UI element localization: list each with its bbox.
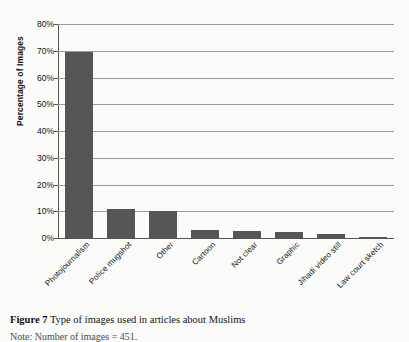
figure-page: Percentage of Images 0%10%20%30%40%50%60…	[0, 0, 409, 342]
x-axis-tick-label: Law court sketch	[335, 240, 385, 290]
x-axis-tick-labels: PhotojournalismPolice mugshotOtherCartoo…	[58, 240, 394, 302]
figure-note: Note: Number of images = 451.	[10, 331, 402, 342]
bar	[275, 232, 303, 238]
bar-chart: Percentage of Images 0%10%20%30%40%50%60…	[0, 0, 409, 310]
y-axis-tick-label: 70%	[37, 46, 54, 56]
x-axis-tick-label: Not clear	[230, 240, 260, 270]
y-axis-tick-label: 80%	[37, 19, 54, 29]
bar	[359, 237, 387, 238]
bar	[107, 209, 135, 238]
x-axis-tick-label: Other	[154, 240, 175, 261]
x-axis-tick-label: Police mugshot	[87, 240, 133, 286]
y-axis-title: Percentage of Images	[15, 1, 25, 161]
bar-series	[58, 24, 394, 238]
x-axis-tick-label: Photojournalism	[43, 240, 91, 288]
y-axis-tick-label: 30%	[37, 153, 54, 163]
y-axis-tick-mark	[54, 238, 58, 239]
bar	[191, 230, 219, 238]
x-axis-tick-label: Graphic	[275, 240, 302, 267]
y-axis-tick-label: 20%	[37, 180, 54, 190]
y-axis-tick-label: 60%	[37, 73, 54, 83]
bar	[65, 52, 93, 238]
x-axis-tick-label: Cartoon	[190, 240, 217, 267]
x-axis-baseline	[58, 238, 394, 239]
plot-area: 0%10%20%30%40%50%60%70%80%	[58, 24, 394, 238]
x-axis-tick-label: Jihadi video still	[296, 240, 343, 287]
y-axis-tick-label: 0%	[42, 233, 54, 243]
y-axis-tick-label: 10%	[37, 206, 54, 216]
figure-caption-text: Type of images used in articles about Mu…	[50, 314, 246, 325]
y-axis-tick-label: 50%	[37, 99, 54, 109]
bar	[317, 234, 345, 238]
y-axis-tick-label: 40%	[37, 126, 54, 136]
bar	[233, 231, 261, 238]
bar	[149, 211, 177, 238]
figure-caption: Figure 7 Type of images used in articles…	[10, 313, 402, 326]
figure-caption-label: Figure 7	[10, 314, 47, 325]
